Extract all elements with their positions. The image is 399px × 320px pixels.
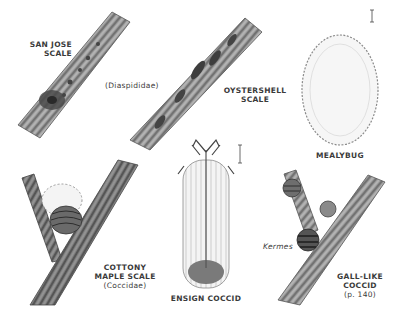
cottony-maple-scale-label: COTTONY MAPLE SCALE (Coccidae) (92, 263, 158, 290)
insect-plate-illustration: SAN JOSE SCALE (Diaspididae) OYSTERSHELL… (0, 0, 399, 320)
san-jose-scale-label: SAN JOSE SCALE (18, 40, 72, 58)
label-line: (p. 140) (335, 290, 385, 299)
oystershell-scale-label: OYSTERSHELL SCALE (215, 86, 295, 104)
mealybug-body (302, 10, 378, 145)
label-line: MEALYBUG (305, 151, 375, 160)
label-line: ENSIGN COCCID (162, 294, 250, 303)
gall-like-coccid-label: GALL-LIKE COCCID (p. 140) (335, 272, 385, 299)
diaspididae-label: (Diaspididae) (105, 81, 159, 90)
ensign-coccid-label: ENSIGN COCCID (162, 294, 250, 303)
label-line: SCALE (215, 95, 295, 104)
label-line: MAPLE SCALE (92, 272, 158, 281)
san-jose-scale-twig (18, 12, 130, 138)
label-line: (Diaspididae) (105, 81, 159, 90)
label-line: SCALE (18, 49, 72, 58)
label-line: (Coccidae) (92, 281, 158, 290)
kermes-label: Kermes (263, 242, 293, 251)
mealybug-label: MEALYBUG (305, 151, 375, 160)
label-line: COTTONY (92, 263, 158, 272)
label-line: OYSTERSHELL (215, 86, 295, 95)
ensign-coccid-body (178, 140, 242, 288)
label-line: Kermes (263, 242, 293, 251)
label-line: SAN JOSE (18, 40, 72, 49)
label-line: COCCID (335, 281, 385, 290)
label-line: GALL-LIKE (335, 272, 385, 281)
